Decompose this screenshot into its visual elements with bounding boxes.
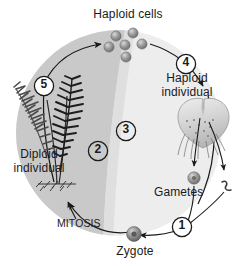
zygote-label: Zygote bbox=[104, 245, 166, 258]
spore-cell bbox=[121, 52, 131, 62]
sperm-cell bbox=[222, 181, 231, 190]
spore-cell bbox=[128, 28, 138, 38]
haploid-individual-label-line1: Haploid bbox=[150, 72, 224, 85]
step-marker-5: 5 bbox=[34, 78, 54, 91]
spore-cell bbox=[111, 31, 121, 41]
step-marker-2: 2 bbox=[88, 143, 108, 156]
diploid-individual-label-line2: individual bbox=[2, 162, 76, 175]
step-marker-3: 3 bbox=[116, 123, 136, 136]
spore-cell bbox=[137, 39, 147, 49]
spore-cell bbox=[120, 40, 130, 50]
step-marker-1: 1 bbox=[172, 219, 192, 232]
haploid-cells-label: Haploid cells bbox=[78, 8, 178, 21]
mitosis-label: MITOSIS bbox=[57, 218, 101, 230]
life-cycle-diagram: 5 4 3 2 1 Haploid cells Haploid individu… bbox=[0, 0, 247, 266]
zygote-group bbox=[127, 227, 142, 242]
gametes-label: Gametes bbox=[154, 186, 203, 199]
haploid-individual-label-line2: individual bbox=[150, 86, 224, 99]
spore-cell bbox=[104, 42, 114, 52]
diploid-individual-label-line1: Diploid bbox=[4, 148, 74, 161]
step-marker-4: 4 bbox=[176, 56, 196, 69]
